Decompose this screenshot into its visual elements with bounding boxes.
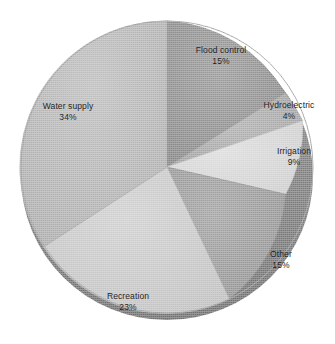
pie-label-flood-control: Flood control 15% <box>178 45 264 66</box>
pie-label-hydroelectric-value: 4% <box>246 111 332 122</box>
pie-label-hydroelectric-name: Hydroelectric <box>246 100 332 111</box>
pie-label-other: Other 15% <box>250 249 312 270</box>
pie-label-irrigation: Irrigation 9% <box>258 146 330 167</box>
pie-label-other-name: Other <box>250 249 312 260</box>
pie-chart: Flood control 15% Hydroelectric 4% Irrig… <box>0 0 335 344</box>
pie-chart-plot-area: Flood control 15% Hydroelectric 4% Irrig… <box>0 0 335 344</box>
pie-label-water-supply-value: 34% <box>22 112 114 123</box>
pie-label-water-supply: Water supply 34% <box>22 101 114 122</box>
pie-label-other-value: 15% <box>250 260 312 271</box>
pie-label-water-supply-name: Water supply <box>22 101 114 112</box>
pie-label-irrigation-value: 9% <box>258 157 330 168</box>
pie-label-recreation-value: 23% <box>86 302 170 313</box>
pie-label-recreation-name: Recreation <box>86 291 170 302</box>
pie-label-hydroelectric: Hydroelectric 4% <box>246 100 332 121</box>
pie-label-flood-control-value: 15% <box>178 56 264 67</box>
pie-label-flood-control-name: Flood control <box>178 45 264 56</box>
pie-label-recreation: Recreation 23% <box>86 291 170 312</box>
pie-label-irrigation-name: Irrigation <box>258 146 330 157</box>
